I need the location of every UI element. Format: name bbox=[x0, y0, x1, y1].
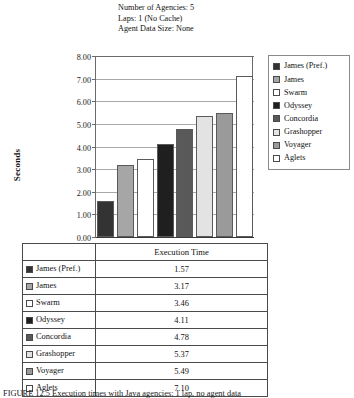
table-row-value: 5.37 bbox=[96, 346, 267, 362]
legend-swatch-icon bbox=[273, 155, 280, 162]
legend-swatch-icon bbox=[273, 102, 280, 109]
table-row: James (Pref.)1.57 bbox=[23, 261, 267, 278]
table-row-label: James (Pref.) bbox=[36, 265, 80, 273]
table-row-value: 3.17 bbox=[96, 278, 267, 294]
legend-item: Swarm bbox=[273, 86, 346, 99]
bar bbox=[236, 76, 253, 237]
y-tick-label: 5.00 bbox=[77, 120, 91, 129]
table-row-label-cell: James (Pref.) bbox=[23, 261, 96, 277]
table-swatch-icon bbox=[26, 334, 33, 341]
table-row-value: 3.46 bbox=[96, 295, 267, 311]
table-row-label: Concordia bbox=[36, 333, 71, 341]
y-tick-label: 3.00 bbox=[77, 166, 91, 175]
legend-item-label: Aglets bbox=[284, 154, 305, 162]
table-row-label-cell: Concordia bbox=[23, 329, 96, 345]
table-header-value-cell: Execution Time bbox=[96, 244, 267, 260]
y-tick-label: 0.00 bbox=[77, 234, 91, 243]
data-table: Execution Time James (Pref.)1.57James3.1… bbox=[22, 243, 268, 397]
y-tick-label: 1.00 bbox=[77, 211, 91, 220]
table-header-row: Execution Time bbox=[23, 244, 267, 261]
y-tick-label: 4.00 bbox=[77, 143, 91, 152]
legend-item: James (Pref.) bbox=[273, 60, 346, 73]
legend-swatch-icon bbox=[273, 89, 280, 96]
y-tick-label: 6.00 bbox=[77, 98, 91, 107]
legend-item: Voyager bbox=[273, 139, 346, 152]
legend-item-label: James bbox=[284, 76, 304, 84]
table-row-label-cell: Swarm bbox=[23, 295, 96, 311]
legend-item: James bbox=[273, 73, 346, 86]
table-row: Concordia4.78 bbox=[23, 329, 267, 346]
table-row: Swarm3.46 bbox=[23, 295, 267, 312]
bar bbox=[117, 165, 134, 237]
table-swatch-icon bbox=[26, 368, 33, 375]
gridline: 0.00 bbox=[96, 237, 254, 238]
table-swatch-icon bbox=[26, 300, 33, 307]
table-row-label-cell: Odyssey bbox=[23, 312, 96, 328]
bar bbox=[176, 129, 193, 237]
legend-item: Aglets bbox=[273, 152, 346, 165]
table-row-value: 1.57 bbox=[96, 261, 267, 277]
bar bbox=[196, 116, 213, 237]
table-header-label-cell bbox=[23, 244, 96, 260]
table-row-value: 5.49 bbox=[96, 363, 267, 379]
legend-item: Odyssey bbox=[273, 99, 346, 112]
table-row-label: James bbox=[36, 282, 56, 290]
table-row: Odyssey4.11 bbox=[23, 312, 267, 329]
bar bbox=[216, 113, 233, 237]
bar bbox=[137, 159, 154, 237]
table-row: James3.17 bbox=[23, 278, 267, 295]
table-swatch-icon bbox=[26, 317, 33, 324]
table-row-label: Swarm bbox=[36, 299, 60, 307]
chart-legend: James (Pref.)JamesSwarmOdysseyConcordiaG… bbox=[268, 55, 350, 170]
plot-area: 0.001.002.003.004.005.006.007.008.00 bbox=[95, 56, 253, 237]
chart-title-line-1: Number of Agencies: 5 bbox=[118, 3, 194, 14]
y-tick-label: 8.00 bbox=[77, 53, 91, 62]
table-swatch-icon bbox=[26, 283, 33, 290]
legend-item: Grashopper bbox=[273, 125, 346, 138]
table-row-label: Grashopper bbox=[36, 350, 75, 358]
chart-title-block: Number of Agencies: 5 Laps: 1 (No Cache)… bbox=[118, 3, 194, 35]
table-row: Voyager5.49 bbox=[23, 363, 267, 380]
table-row-label-cell: Voyager bbox=[23, 363, 96, 379]
table-row: Grashopper5.37 bbox=[23, 346, 267, 363]
y-tick-label: 2.00 bbox=[77, 188, 91, 197]
legend-swatch-icon bbox=[273, 76, 280, 83]
legend-item-label: Voyager bbox=[284, 141, 311, 149]
figure-caption: FIGURE 12.5 Execution times with Java ag… bbox=[3, 389, 351, 398]
bar-group bbox=[96, 56, 254, 237]
legend-item-label: Grashopper bbox=[284, 128, 322, 136]
table-body: James (Pref.)1.57James3.17Swarm3.46Odyss… bbox=[23, 261, 267, 397]
table-swatch-icon bbox=[26, 351, 33, 358]
table-row-label: Voyager bbox=[36, 367, 64, 375]
legend-swatch-icon bbox=[273, 63, 280, 70]
table-row-value: 4.11 bbox=[96, 312, 267, 328]
bar bbox=[157, 144, 174, 237]
legend-item: Concordia bbox=[273, 112, 346, 125]
table-row-label-cell: James bbox=[23, 278, 96, 294]
bar bbox=[97, 201, 114, 237]
legend-swatch-icon bbox=[273, 142, 280, 149]
table-row-label: Odyssey bbox=[36, 316, 65, 324]
legend-item-label: Swarm bbox=[284, 89, 307, 97]
legend-item-label: Odyssey bbox=[284, 102, 312, 110]
y-axis-title: Seconds bbox=[12, 135, 22, 195]
y-tick-mark bbox=[92, 237, 96, 238]
legend-item-label: James (Pref.) bbox=[284, 62, 327, 70]
y-tick-label: 7.00 bbox=[77, 75, 91, 84]
chart-title-line-3: Agent Data Size: None bbox=[118, 24, 194, 35]
chart-title-line-2: Laps: 1 (No Cache) bbox=[118, 14, 194, 25]
table-row-value: 4.78 bbox=[96, 329, 267, 345]
legend-item-label: Concordia bbox=[284, 115, 318, 123]
legend-swatch-icon bbox=[273, 115, 280, 122]
table-row-label-cell: Grashopper bbox=[23, 346, 96, 362]
legend-swatch-icon bbox=[273, 129, 280, 136]
table-swatch-icon bbox=[26, 266, 33, 273]
